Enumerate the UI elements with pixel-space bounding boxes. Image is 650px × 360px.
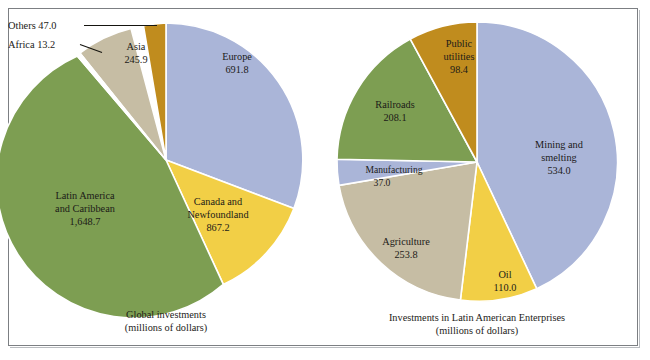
label-mining-value: 534.0 <box>547 165 570 176</box>
label-oil-name: Oil <box>498 269 511 280</box>
label-mining-name2: smelting <box>541 152 576 163</box>
label-manufacturing-value: 37.0 <box>374 177 391 188</box>
right-caption-line1: Investments in Latin American Enterprise… <box>389 312 565 323</box>
figure-canvas: Europe 691.8 Canada and Newfoundland 867… <box>0 0 650 360</box>
left-pie-chart: Europe 691.8 Canada and Newfoundland 867… <box>0 20 303 334</box>
label-latin-name2: and Caribbean <box>55 203 115 214</box>
label-latin-name1: Latin America <box>55 190 115 201</box>
label-canada-name1: Canada and <box>194 196 243 207</box>
label-mining-name1: Mining and <box>535 139 584 150</box>
label-europe-value: 691.8 <box>225 64 248 75</box>
pie-charts-svg: Europe 691.8 Canada and Newfoundland 867… <box>0 0 650 360</box>
label-asia-name: Asia <box>127 41 146 52</box>
label-railroads-name: Railroads <box>375 99 414 110</box>
callout-others-label: Others 47.0 <box>8 20 56 31</box>
callout-africa-label: Africa 13.2 <box>8 39 55 50</box>
label-railroads-value: 208.1 <box>383 112 406 123</box>
label-canada-value: 867.2 <box>206 222 229 233</box>
label-europe-name: Europe <box>222 51 252 62</box>
label-latin-value: 1,648.7 <box>70 216 101 227</box>
label-manufacturing-name: Manufacturing <box>365 164 422 175</box>
label-agriculture-name: Agriculture <box>382 236 430 247</box>
label-asia-value: 245.9 <box>124 54 147 65</box>
right-caption-line2: (millions of dollars) <box>436 325 518 337</box>
label-oil-value: 110.0 <box>494 282 517 293</box>
label-agriculture-value: 253.8 <box>394 249 417 260</box>
label-utilities-name1: Public <box>446 38 473 49</box>
left-caption-line2: (millions of dollars) <box>125 322 207 334</box>
label-utilities-value: 98.4 <box>450 64 468 75</box>
label-utilities-name2: utilities <box>444 51 475 62</box>
label-canada-name2: Newfoundland <box>187 209 249 220</box>
right-pie-chart: Mining and smelting 534.0 Oil 110.0 Agri… <box>337 22 617 337</box>
left-caption-line1: Global investments <box>126 309 206 320</box>
